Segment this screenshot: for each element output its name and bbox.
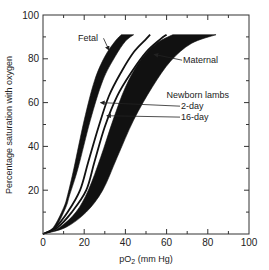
y-tick-label: 100 [22, 10, 39, 21]
x-tick-label: 60 [161, 237, 173, 248]
annotation-fetal: Fetal [78, 33, 98, 43]
series-line-newborn-lambs-2-day [43, 35, 150, 234]
y-tick-label: 20 [28, 185, 40, 196]
x-axis-title-main: pO [119, 254, 131, 264]
y-tick-label: 80 [28, 53, 40, 64]
x-tick-label: 100 [241, 237, 258, 248]
x-axis-title: pO2 (mm Hg) [119, 254, 172, 265]
x-tick-label: 20 [79, 237, 91, 248]
annotation-arrow-fetal [104, 38, 109, 50]
x-tick-label: 0 [40, 237, 46, 248]
y-tick-label: 40 [28, 141, 40, 152]
annotation-16-day: 16-day [181, 112, 209, 122]
oxygen-dissociation-chart: 02040608010020406080100 FetalMaternalNew… [0, 0, 269, 270]
annotation-maternal: Maternal [183, 55, 218, 65]
x-tick-label: 80 [202, 237, 214, 248]
y-axis-title: Percentage saturation with oxygen [4, 56, 14, 194]
annotation-2-day: 2-day [181, 101, 204, 111]
x-tick-label: 40 [120, 237, 132, 248]
x-axis-title-unit: (mm Hg) [135, 254, 173, 264]
annotation-newborn-lambs: Newborn lambs [167, 90, 230, 100]
y-tick-label: 60 [28, 97, 40, 108]
